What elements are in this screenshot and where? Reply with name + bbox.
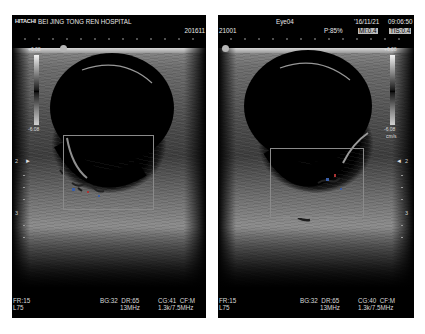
footer-params: BG:32 DR:65 13MHz xyxy=(100,297,140,311)
depth-mark-2: 2 xyxy=(15,159,18,165)
exam-time: 09:06:50 xyxy=(388,19,413,25)
depth-tick xyxy=(23,187,25,188)
frame-rate: FR:15 xyxy=(13,297,30,304)
exam-preset: Eye04 xyxy=(276,19,294,25)
depth-tick xyxy=(23,199,25,200)
frame-rate: FR:15 xyxy=(219,297,236,304)
patient-id-part: 201611 xyxy=(184,28,205,34)
color-roi-box[interactable] xyxy=(270,148,364,218)
bmode-frequency: 13MHz xyxy=(300,304,340,311)
patient-id-part: 21001 xyxy=(219,28,237,34)
depth-tick xyxy=(401,237,403,238)
footer-color-params: CG:40 CF:M 1.3k/7.5MHz xyxy=(358,297,395,311)
bmode-frequency: 13MHz xyxy=(100,304,140,311)
depth-fade xyxy=(218,228,414,288)
brand-logo: HITACHI xyxy=(15,19,36,25)
bmode-gain: BG:32 xyxy=(300,297,318,304)
exam-date: '16/11/21 xyxy=(354,19,379,25)
color-velocity-bar xyxy=(34,55,39,125)
probe-name: L75 xyxy=(219,304,236,311)
depth-tick xyxy=(23,175,25,176)
bmode-image xyxy=(12,48,206,288)
depth-tick xyxy=(401,175,403,176)
focus-marker-icon: ◄ xyxy=(396,158,402,164)
mechanical-index: MI:0.4 xyxy=(358,28,378,34)
depth-mark-2: 2 xyxy=(405,159,408,165)
footer-left: FR:15 L75 xyxy=(13,297,30,311)
color-roi-box[interactable] xyxy=(63,135,154,210)
colorbar-min: -6.08 xyxy=(384,127,395,132)
depth-tick xyxy=(23,237,25,238)
footer-params: BG:32 DR:65 13MHz xyxy=(300,297,340,311)
depth-mark-3: 3 xyxy=(405,211,408,217)
color-gain: CG:40 xyxy=(358,297,376,304)
dynamic-range: DR:65 xyxy=(321,297,339,304)
colorbar-min: -6.08 xyxy=(28,127,39,132)
acoustic-power: P:85% xyxy=(324,28,343,34)
orientation-marker xyxy=(60,45,67,52)
colorbar-max: +6.08 xyxy=(384,47,397,52)
color-prf-frequency: 1.3k/7.5MHz xyxy=(358,304,395,311)
bmode-image xyxy=(218,48,414,288)
depth-tick xyxy=(23,225,25,226)
lateral-scale-ticks xyxy=(18,38,200,40)
ultrasound-panel-left: HITACHI BEI JING TONG REN HOSPITAL 20161… xyxy=(12,15,206,318)
thermal-index: TIS:0.4 xyxy=(389,28,411,34)
colorbar-unit: cm/s xyxy=(386,134,397,139)
bmode-gain: BG:32 xyxy=(100,297,118,304)
color-prf-frequency: 1.3k/7.5MHz xyxy=(158,304,195,311)
orientation-marker xyxy=(222,45,229,52)
depth-tick xyxy=(401,199,403,200)
color-gain: CG:41 xyxy=(158,297,176,304)
depth-tick xyxy=(401,225,403,226)
depth-tick xyxy=(401,187,403,188)
depth-fade xyxy=(12,228,206,288)
depth-mark-3: 3 xyxy=(15,211,18,217)
dynamic-range: DR:65 xyxy=(121,297,139,304)
focus-marker-icon: ► xyxy=(25,158,31,164)
color-flow-mode: CF:M xyxy=(380,297,395,304)
colorbar-max: +6.08 xyxy=(28,47,41,52)
footer-color-params: CG:41 CF:M 1.3k/7.5MHz xyxy=(158,297,195,311)
color-velocity-bar xyxy=(390,55,395,125)
ultrasound-panel-right: Eye04 '16/11/21 09:06:50 21001 P:85% MI:… xyxy=(218,15,414,318)
footer-left: FR:15 L75 xyxy=(219,297,236,311)
color-flow-mode: CF:M xyxy=(180,297,195,304)
hospital-name: BEI JING TONG REN HOSPITAL xyxy=(38,19,131,25)
probe-name: L75 xyxy=(13,304,30,311)
lateral-scale-ticks xyxy=(224,38,408,40)
